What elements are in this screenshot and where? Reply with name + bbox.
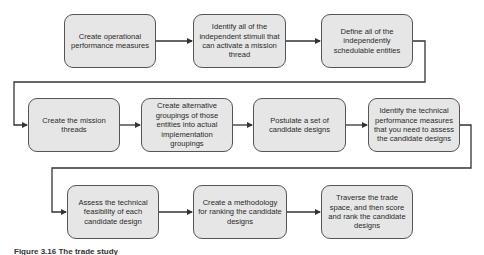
step-3-box: Define all of the independently schedula… (321, 14, 413, 68)
step-3-label: Define all of the independently schedula… (326, 27, 408, 55)
step-5-box: Create alternative groupings of those en… (141, 98, 233, 152)
flowchart-diagram: Create operational performance measures … (0, 0, 484, 255)
step-4-box: Create the mission threads (28, 98, 120, 152)
step-10-label: Traverse the trade space, and then score… (326, 193, 408, 231)
step-8-label: Assess the technical feasibility of each… (72, 198, 154, 226)
step-6-label: Postulate a set of candidate designs (258, 116, 341, 135)
step-4-label: Create the mission threads (33, 116, 115, 135)
step-9-box: Create a methodology for ranking the can… (193, 185, 287, 239)
figure-caption: Figure 3.16 The trade study (14, 246, 118, 255)
step-9-label: Create a methodology for ranking the can… (198, 198, 282, 226)
step-5-label: Create alternative groupings of those en… (146, 101, 228, 148)
step-2-box: Identify all of the independent stimuli … (193, 14, 286, 68)
step-8-box: Assess the technical feasibility of each… (67, 185, 159, 239)
step-10-box: Traverse the trade space, and then score… (321, 185, 413, 239)
step-2-label: Identify all of the independent stimuli … (198, 22, 281, 60)
step-1-label: Create operational performance measures (69, 32, 151, 51)
step-1-box: Create operational performance measures (64, 14, 156, 68)
step-6-box: Postulate a set of candidate designs (253, 98, 346, 152)
step-7-label: Identify the technical performance measu… (373, 106, 455, 144)
step-7-box: Identify the technical performance measu… (368, 98, 460, 152)
